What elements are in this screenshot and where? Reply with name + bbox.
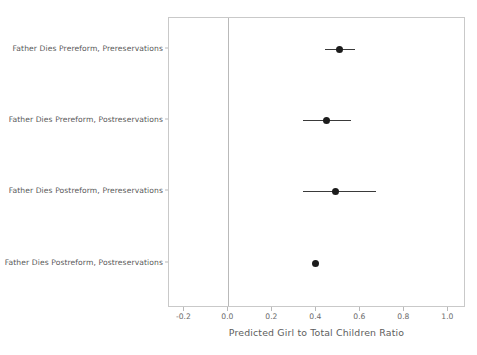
y-axis-label-row-2: Father Dies Prereform, Postreservations	[9, 115, 163, 124]
x-axis-tick-label: 0.8	[397, 312, 409, 321]
x-axis-tick-mark	[227, 307, 228, 311]
x-axis-tick-label: 1.0	[441, 312, 453, 321]
y-axis-label-row-4: Father Dies Postreform, Postreservations	[5, 258, 163, 267]
x-axis-tick-mark	[271, 307, 272, 311]
x-axis-tick-label: 0.4	[309, 312, 321, 321]
y-axis-label-row-1: Father Dies Prereform, Prereservations	[13, 44, 163, 53]
x-axis-tick-mark	[315, 307, 316, 311]
x-axis-tick-label: 0.0	[221, 312, 233, 321]
zero-reference-line	[228, 18, 229, 306]
coefficient-plot-figure: Father Dies Prereform, Prereservations F…	[0, 0, 477, 355]
x-axis-title: Predicted Girl to Total Children Ratio	[168, 327, 465, 338]
estimate-point	[336, 46, 343, 53]
x-axis-tick-label: 0.2	[265, 312, 277, 321]
x-axis-tick-mark	[403, 307, 404, 311]
plot-panel	[168, 17, 465, 307]
x-axis-tick-label: -0.2	[176, 312, 191, 321]
x-axis-tick-mark	[359, 307, 360, 311]
x-axis-tick-label: 0.6	[353, 312, 365, 321]
y-axis-label-row-3: Father Dies Postreform, Prereservations	[9, 186, 163, 195]
x-axis-tick-mark	[447, 307, 448, 311]
estimate-point	[312, 260, 319, 267]
confidence-interval-bar	[303, 191, 376, 192]
x-axis-tick-mark	[183, 307, 184, 311]
estimate-point	[332, 188, 339, 195]
estimate-point	[323, 117, 330, 124]
